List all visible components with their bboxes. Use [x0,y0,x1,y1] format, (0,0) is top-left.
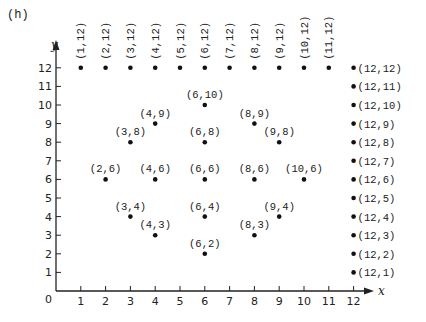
point-marker-icon [153,177,158,182]
point-marker-icon [203,103,208,108]
y-tick-label: 3 [45,229,52,242]
origin-label: 0 [45,293,52,306]
point-marker-icon [277,140,282,145]
point-label: (4,9) [139,108,171,120]
point-label: (10,12) [299,16,311,60]
point-marker-icon [351,270,356,275]
x-axis-label: x [378,284,385,298]
data-point: (9,4) [263,201,295,219]
y-tick-label: 9 [45,118,52,131]
point-label: (5,12) [175,22,187,60]
data-point: (12,6) [351,174,395,186]
data-point: (4,12) [150,22,162,70]
point-label: (12,11) [358,81,402,93]
point-marker-icon [277,214,282,219]
data-point: (5,12) [175,22,187,70]
data-point: (4,6) [139,163,171,181]
data-point: (12,4) [351,212,395,224]
data-point: (8,6) [239,163,271,181]
data-point: (12,2) [351,249,395,261]
point-marker-icon [302,177,307,182]
data-point: (1,12) [75,22,87,70]
data-point: (9,12) [274,22,286,70]
x-tick-label: 3 [127,295,134,308]
point-marker-icon [227,66,232,71]
point-label: (2,6) [90,163,122,175]
point-label: (12,10) [358,100,402,112]
point-marker-icon [327,66,332,71]
point-marker-icon [351,177,356,182]
y-tick-label: 11 [38,80,52,93]
point-label: (9,12) [274,22,286,60]
y-tick-label: 2 [45,248,52,261]
point-marker-icon [203,214,208,219]
y-tick-label: 10 [38,99,52,112]
data-point: (6,12) [199,22,211,70]
point-label: (12,1) [358,267,396,279]
point-label: (9,4) [263,201,295,213]
point-label: (2,12) [100,22,112,60]
point-label: (11,12) [323,16,335,60]
point-label: (8,12) [249,22,261,60]
point-label: (6,2) [189,238,221,250]
point-marker-icon [252,233,257,238]
data-point: (12,1) [351,267,395,279]
x-tick-label: 4 [152,295,159,308]
point-label: (10,6) [285,163,323,175]
point-label: (1,12) [75,22,87,60]
data-point: (2,6) [90,163,122,181]
point-marker-icon [351,233,356,238]
point-marker-icon [203,66,208,71]
data-point: (9,8) [263,126,295,144]
data-point: (12,5) [351,193,395,205]
y-tick-label: 5 [45,192,52,205]
point-marker-icon [103,177,108,182]
data-point: (11,12) [323,16,335,70]
point-label: (6,6) [189,163,221,175]
data-point: (3,4) [115,201,147,219]
data-point: (2,12) [100,22,112,70]
data-point: (6,2) [189,238,221,256]
data-point: (4,9) [139,108,171,126]
point-marker-icon [351,121,356,126]
point-label: (12,8) [358,137,396,149]
plot-canvas: (h) y x 0 123456789101112 12345678910111… [0,0,426,322]
x-tick-label: 12 [347,295,361,308]
point-label: (12,3) [358,230,396,242]
x-tick-label: 1 [77,295,84,308]
point-marker-icon [203,177,208,182]
x-axis [56,288,374,295]
point-marker-icon [153,233,158,238]
point-marker-icon [252,121,257,126]
point-marker-icon [302,66,307,71]
scatter-figure: (h) y x 0 123456789101112 12345678910111… [0,0,426,322]
y-tick-label: 12 [38,62,52,75]
point-marker-icon [128,66,133,71]
x-tick-label: 8 [251,295,258,308]
y-tick-label: 6 [45,173,52,186]
point-label: (12,2) [358,249,396,261]
point-marker-icon [252,177,257,182]
point-label: (6,10) [186,89,224,101]
point-label: (12,5) [358,193,396,205]
x-tick-label: 6 [201,295,208,308]
point-marker-icon [128,214,133,219]
data-point: (3,8) [115,126,147,144]
point-label: (12,12) [358,63,402,75]
point-label: (8,3) [239,219,271,231]
x-tick-label: 7 [226,295,233,308]
data-point: (6,8) [189,126,221,144]
x-tick-label: 10 [297,295,311,308]
point-marker-icon [351,214,356,219]
point-label: (3,8) [115,126,147,138]
data-point: (8,12) [249,22,261,70]
point-label: (4,12) [150,22,162,60]
data-point: (12,9) [351,119,395,131]
point-marker-icon [203,140,208,145]
point-marker-icon [351,159,356,164]
point-marker-icon [103,66,108,71]
point-label: (7,12) [224,22,236,60]
point-marker-icon [351,103,356,108]
point-label: (4,3) [139,219,171,231]
data-point: (12,10) [351,100,401,112]
